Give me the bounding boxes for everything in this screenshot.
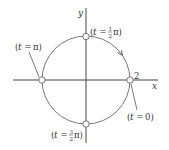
svg-text:1: 1 <box>109 26 113 32</box>
svg-text:t: t <box>18 42 22 52</box>
x-axis-label: x <box>152 81 157 91</box>
svg-text:t: t <box>54 130 58 140</box>
parametric-circle-diagram: y x 2 ( t = 1 2 π ) ( t = π ) ( t = 0 ) … <box>0 0 169 150</box>
leader-line-t-zero <box>131 84 137 110</box>
label-t-pi: ( t = π ) <box>15 42 42 52</box>
svg-text:=: = <box>61 130 68 140</box>
svg-text:): ) <box>151 112 154 122</box>
svg-text:=: = <box>25 42 32 52</box>
point-t-half-pi <box>83 33 89 39</box>
point-t-zero <box>127 77 133 83</box>
direction-arrow-icon <box>118 50 123 55</box>
y-axis-label: y <box>77 8 84 18</box>
label-t-zero: ( t = 0 ) <box>127 112 154 122</box>
svg-text:3: 3 <box>70 129 74 135</box>
svg-text:): ) <box>119 27 122 37</box>
svg-text:): ) <box>80 130 83 140</box>
svg-text:t: t <box>130 112 134 122</box>
label-t-half-pi: ( t = 1 2 π ) <box>90 26 122 39</box>
svg-text:=: = <box>100 27 107 37</box>
label-t-three-half-pi: ( t = 3 2 π ) <box>51 129 83 142</box>
leader-line-t-pi <box>29 52 39 77</box>
svg-text:=: = <box>137 112 144 122</box>
svg-text:t: t <box>93 27 97 37</box>
svg-text:2: 2 <box>70 136 74 142</box>
point-t-pi <box>39 77 45 83</box>
point-t-three-half-pi <box>83 121 89 127</box>
radius-label: 2 <box>134 71 139 81</box>
svg-text:): ) <box>39 42 42 52</box>
svg-text:2: 2 <box>109 33 113 39</box>
